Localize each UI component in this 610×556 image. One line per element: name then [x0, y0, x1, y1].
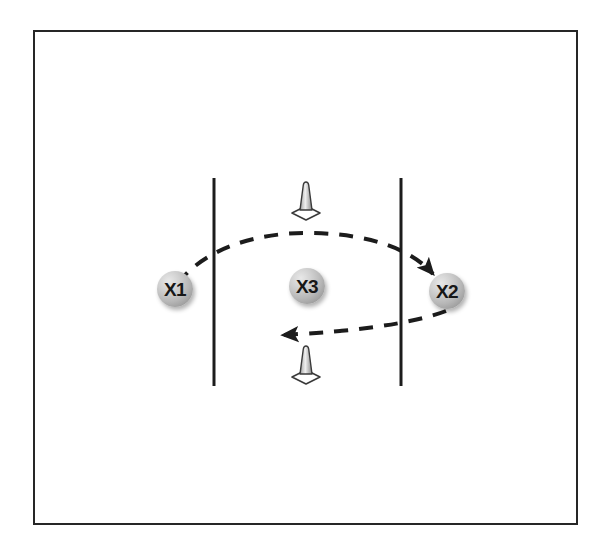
pass-arc-x2-to-left	[283, 311, 446, 335]
cone-top-icon	[290, 180, 322, 222]
player-label-x2: X2	[436, 282, 458, 301]
player-marker-x1: X1	[157, 271, 193, 307]
cone-bottom-icon	[290, 344, 322, 386]
player-label-x1: X1	[164, 280, 186, 299]
player-marker-x3: X3	[289, 268, 325, 304]
player-label-x3: X3	[296, 277, 318, 296]
player-marker-x2: X2	[429, 273, 465, 309]
diagram-canvas: X1 X3 X2	[0, 0, 610, 556]
